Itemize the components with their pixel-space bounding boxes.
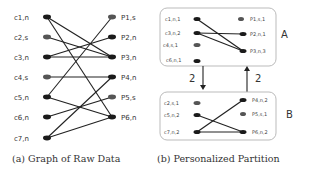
- node-label: P4,n: [121, 74, 136, 82]
- node-label: P6,n,2: [252, 129, 268, 135]
- node-p6: [240, 130, 247, 134]
- node-c3: [43, 55, 51, 60]
- node-label: c7,n,2: [164, 129, 179, 135]
- arrow-a-to-b: 2: [189, 66, 206, 90]
- node-label: P1,s: [121, 14, 136, 22]
- node-label: P6,n: [121, 114, 136, 122]
- node-label: P5,s: [121, 94, 136, 102]
- node-label: P5,s,1: [252, 111, 267, 117]
- panel-b-partition: A c1,n,1 c3,n,2 c4,s,1 c6,n,1 P1,s,1 P2,…: [157, 8, 293, 164]
- node-p3: [108, 55, 116, 60]
- node-c4: [194, 43, 201, 47]
- edge-c1-p6: [47, 17, 112, 117]
- caption-b: (b) Personalized Partition: [157, 153, 280, 164]
- node-p3: [240, 49, 247, 53]
- node-label: c3,n,2: [165, 30, 180, 36]
- edge-c1-p3: [47, 17, 112, 57]
- partition-b-label: B: [286, 109, 293, 120]
- node-p6: [108, 115, 116, 120]
- node-label: P2,n,1: [250, 31, 266, 37]
- node-label: c5,n,2: [164, 112, 179, 118]
- node-label: c6,n,1: [166, 57, 181, 63]
- node-label: P3,n: [121, 54, 136, 62]
- node-p5: [108, 95, 116, 100]
- arrow-up-icon: [244, 66, 250, 71]
- node-label: P1,s,1: [250, 16, 265, 22]
- node-label: c2,s,1: [164, 100, 179, 106]
- node-c1: [194, 17, 201, 21]
- node-p1: [238, 17, 244, 21]
- node-c7: [194, 130, 201, 134]
- panel-a-right-nodes: P1,s P2,n P3,n P4,n P5,s P6,n: [108, 14, 136, 122]
- edge-c7-p4: [47, 77, 112, 138]
- node-label: c5,n: [14, 94, 29, 102]
- panel-a-edges: [47, 17, 112, 138]
- arrow-weight: 2: [255, 73, 261, 84]
- node-c5: [194, 113, 201, 117]
- figure: c1,n c2,s c3,n c4,s c5,n c6,n c7,n P1,s …: [0, 0, 309, 176]
- node-c1: [43, 15, 51, 20]
- partition-a-label: A: [281, 29, 288, 40]
- node-label: c4,s,1: [163, 42, 178, 48]
- edge-c7-p6: [47, 117, 112, 138]
- node-p4: [240, 98, 247, 102]
- node-label: c6,n: [14, 114, 29, 122]
- node-p2: [108, 35, 116, 40]
- node-label: c4,s: [14, 74, 29, 82]
- node-label: P3,n,3: [250, 48, 266, 54]
- node-c2: [43, 35, 51, 40]
- node-c7: [43, 136, 51, 141]
- node-label: P4,n,2: [252, 97, 268, 103]
- node-label: c2,s: [14, 34, 29, 42]
- panel-a-left-nodes: c1,n c2,s c3,n c4,s c5,n c6,n c7,n: [14, 14, 51, 143]
- node-label: c1,n: [14, 14, 29, 22]
- node-label: c3,n: [14, 54, 29, 62]
- node-label: c7,n: [14, 135, 29, 143]
- node-p5: [240, 112, 246, 116]
- arrow-b-to-a: 2: [244, 66, 261, 93]
- arrow-down-icon: [200, 85, 206, 90]
- node-c6: [43, 115, 51, 120]
- node-c4: [43, 75, 51, 80]
- node-c3: [194, 31, 201, 35]
- node-c5: [43, 95, 51, 100]
- node-label: c1,n,1: [165, 16, 180, 22]
- panel-a-graph: c1,n c2,s c3,n c4,s c5,n c6,n c7,n P1,s …: [12, 14, 136, 165]
- node-p4: [108, 75, 116, 80]
- node-p2: [240, 32, 247, 36]
- caption-a: (a) Graph of Raw Data: [12, 153, 121, 164]
- node-label: P2,n: [121, 34, 136, 42]
- arrow-weight: 2: [189, 73, 195, 84]
- node-c2: [194, 101, 201, 105]
- node-c6: [194, 59, 201, 63]
- node-p1: [108, 15, 116, 20]
